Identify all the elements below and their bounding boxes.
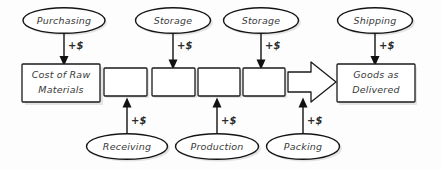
node-shipping-label: Shipping [353,15,396,26]
node-packing[interactable]: Packing [267,134,340,160]
node-production[interactable]: Production [176,134,259,160]
cost-label-storage-1: +$ [177,40,192,51]
start-box-line2: Materials [38,84,83,95]
cost-label-packing: +$ [307,115,322,126]
diagram-canvas: Cost of Raw Materials Goods as Del [0,0,442,169]
cost-label-storage-2: +$ [265,40,280,51]
node-shipping[interactable]: Shipping [338,8,413,34]
end-box-line1: Goods as [353,69,398,80]
process-box-2 [152,68,195,96]
node-receiving-label: Receiving [103,141,151,152]
process-box-4 [243,68,285,96]
node-storage-2-label: Storage [242,15,281,26]
node-storage-2[interactable]: Storage [224,8,299,34]
block-arrow [288,62,336,102]
process-box-1 [104,68,147,96]
end-box: Goods as Delivered [337,64,415,102]
node-purchasing[interactable]: Purchasing [23,8,105,34]
cost-label-production: +$ [221,115,236,126]
start-box-line1: Cost of Raw [32,69,91,80]
process-box-3 [198,68,240,96]
node-receiving[interactable]: Receiving [87,134,168,160]
start-box: Cost of Raw Materials [22,64,100,102]
node-purchasing-label: Purchasing [37,15,91,26]
cost-label-receiving: +$ [131,115,146,126]
node-packing-label: Packing [284,141,322,152]
cost-label-purchasing: +$ [68,40,83,51]
node-production-label: Production [191,141,244,152]
node-storage-1[interactable]: Storage [136,8,211,34]
node-storage-1-label: Storage [154,15,193,26]
cost-label-shipping: +$ [379,40,394,51]
process-flow-diagram: Cost of Raw Materials Goods as Del [0,0,442,169]
end-box-line2: Delivered [352,84,400,95]
